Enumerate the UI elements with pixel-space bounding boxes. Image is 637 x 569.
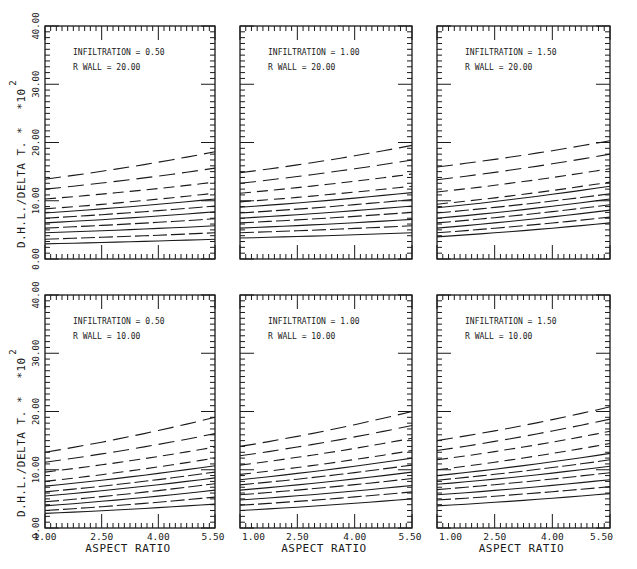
- y-tick-label: 40.00: [31, 281, 41, 308]
- r-wall-annotation: R WALL = 10.00: [465, 332, 533, 341]
- series-line-curve-4: [240, 186, 412, 202]
- series-line-curve-9: [45, 490, 215, 506]
- r-wall-annotation: R WALL = 10.00: [268, 332, 336, 341]
- x-tick-label: 5.50: [590, 531, 613, 542]
- x-tick-label: 4.00: [541, 531, 564, 542]
- x-tick-label: 2.50: [90, 531, 113, 542]
- r-wall-annotation: R WALL = 10.00: [73, 332, 141, 341]
- series-line-curve-5: [45, 199, 215, 213]
- panel-frame: [437, 26, 610, 259]
- y-tick-label: 20.00: [31, 398, 41, 425]
- infiltration-annotation: INFILTRATION = 0.50: [73, 317, 165, 326]
- x-tick-label: 2.50: [483, 531, 506, 542]
- series-line-curve-8: [240, 479, 412, 495]
- x-tick-label: 5.50: [202, 531, 225, 542]
- infiltration-annotation: INFILTRATION = 1.00: [268, 317, 360, 326]
- series-line-curve-3: [45, 182, 215, 199]
- y-axis-exponent: 2: [8, 349, 18, 354]
- series-line-curve-1: [240, 412, 412, 447]
- x-tick-label: 4.00: [343, 531, 366, 542]
- series-line-curve-2: [240, 160, 412, 183]
- series-line-curve-2: [240, 426, 412, 456]
- r-wall-annotation: R WALL = 20.00: [73, 63, 141, 72]
- infiltration-annotation: INFILTRATION = 1.50: [465, 48, 557, 57]
- series-line-curve-3: [45, 447, 215, 472]
- infiltration-annotation: INFILTRATION = 1.50: [465, 317, 557, 326]
- y-axis-title: D.H.L./DELTA T. *: [15, 127, 28, 248]
- y-tick-label: 10.00: [31, 187, 41, 214]
- series-line-curve-2: [437, 154, 610, 180]
- series-line-curve-11: [240, 233, 412, 238]
- x-tick-label: 1.00: [242, 531, 265, 542]
- y-tick-label: 20.00: [31, 129, 41, 156]
- series-line-curve-11: [437, 223, 610, 237]
- y-tick-label: 30.00: [31, 340, 41, 367]
- series-line-curve-1: [45, 152, 215, 179]
- y-tick-label: 40.00: [31, 12, 41, 39]
- series-line-curve-4: [240, 451, 412, 475]
- infiltration-annotation: INFILTRATION = 0.50: [73, 48, 165, 57]
- series-line-curve-1: [45, 417, 215, 452]
- x-axis-title: ASPECT RATIO: [479, 542, 564, 555]
- x-tick-label: 1.00: [439, 531, 462, 542]
- x-tick-label: 5.50: [399, 531, 422, 542]
- series-line-curve-6: [437, 460, 610, 480]
- series-line-curve-11: [45, 239, 215, 244]
- x-tick-label: 2.50: [286, 531, 309, 542]
- infiltration-annotation: INFILTRATION = 1.00: [268, 48, 360, 57]
- r-wall-annotation: R WALL = 20.00: [268, 63, 336, 72]
- series-line-curve-2: [45, 168, 215, 189]
- y-tick-label: 30.00: [31, 71, 41, 98]
- series-line-curve-2: [437, 419, 610, 450]
- x-tick-label: 4.00: [147, 531, 170, 542]
- y-axis-multiplier: *10: [15, 88, 28, 109]
- x-axis-title: ASPECT RATIO: [281, 542, 366, 555]
- series-line-curve-11: [437, 494, 610, 506]
- y-tick-label: 10.00: [31, 456, 41, 483]
- y-tick-label: 0.00: [31, 248, 41, 270]
- chart-canvas: INFILTRATION = 0.50R WALL = 20.000.0010.…: [0, 0, 637, 569]
- y-axis-title: D.H.L./DELTA T. *: [15, 396, 28, 517]
- series-line-curve-4: [437, 182, 610, 204]
- x-tick-label: 1.00: [34, 531, 57, 542]
- series-line-curve-3: [437, 431, 610, 460]
- series-line-curve-3: [240, 174, 412, 193]
- series-line-curve-1: [437, 407, 610, 441]
- r-wall-annotation: R WALL = 20.00: [465, 63, 533, 72]
- series-line-curve-7: [240, 206, 412, 218]
- y-axis-multiplier: *10: [15, 357, 28, 378]
- series-line-curve-10: [45, 233, 215, 239]
- series-line-curve-6: [45, 472, 215, 492]
- series-line-curve-6: [45, 206, 215, 218]
- series-line-curve-8: [437, 473, 610, 490]
- y-axis-exponent: 2: [8, 80, 18, 85]
- series-line-curve-1: [240, 145, 412, 172]
- series-line-curve-7: [45, 212, 215, 223]
- series-line-curve-1: [437, 141, 610, 167]
- x-axis-title: ASPECT RATIO: [85, 542, 170, 555]
- series-line-curve-6: [240, 200, 412, 213]
- series-line-curve-3: [437, 169, 610, 192]
- series-line-curve-11: [240, 499, 412, 511]
